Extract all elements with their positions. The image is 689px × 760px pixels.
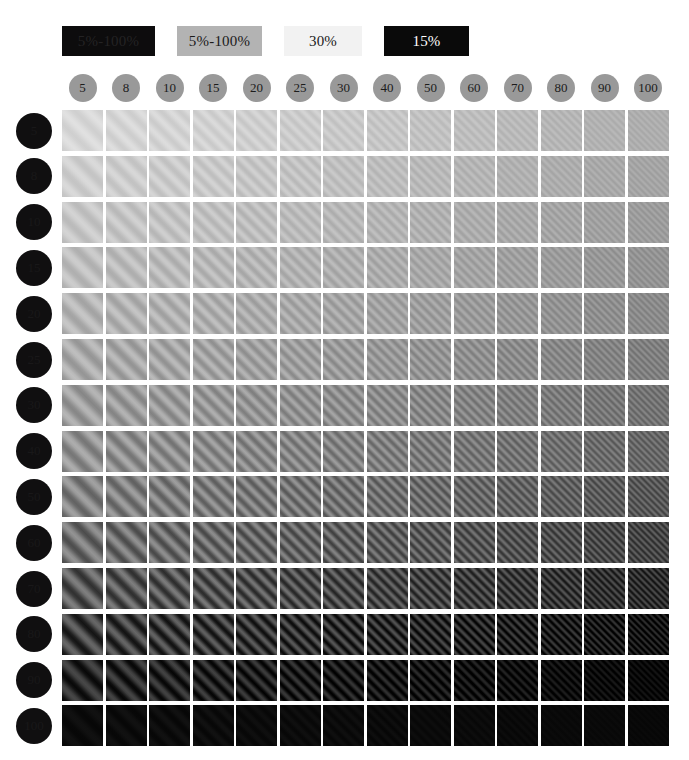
row-header-label: 30 bbox=[28, 397, 41, 413]
grating-pattern bbox=[541, 202, 582, 243]
grating-pattern bbox=[323, 522, 364, 563]
grating-patch bbox=[106, 247, 147, 288]
grating-pattern bbox=[410, 522, 451, 563]
row-header-label: 50 bbox=[28, 489, 41, 505]
grating-pattern bbox=[410, 339, 451, 380]
grating-patch bbox=[280, 431, 321, 472]
column-header-circle: 80 bbox=[547, 74, 575, 102]
grating-patch bbox=[62, 614, 103, 655]
grating-patch bbox=[410, 247, 451, 288]
grating-patch bbox=[323, 385, 364, 426]
row-header-label: 70 bbox=[28, 581, 41, 597]
grating-patch bbox=[497, 568, 538, 609]
grating-pattern bbox=[584, 476, 625, 517]
grating-pattern bbox=[497, 202, 538, 243]
grating-pattern bbox=[367, 293, 408, 334]
grating-patch bbox=[323, 156, 364, 197]
grating-pattern bbox=[367, 705, 408, 746]
grating-pattern bbox=[410, 476, 451, 517]
grating-pattern bbox=[62, 705, 103, 746]
grating-pattern bbox=[410, 705, 451, 746]
grating-pattern bbox=[280, 156, 321, 197]
grating-patch bbox=[323, 476, 364, 517]
grating-patch bbox=[497, 110, 538, 151]
column-header-label: 80 bbox=[555, 80, 568, 96]
grating-patch bbox=[454, 614, 495, 655]
grating-patch bbox=[62, 247, 103, 288]
legend-swatch-0: 5%-100% bbox=[62, 26, 155, 56]
legend-swatch-label: 5%-100% bbox=[78, 33, 139, 50]
grating-patch bbox=[149, 568, 190, 609]
grating-pattern bbox=[193, 614, 234, 655]
row-header-circle: 90 bbox=[16, 662, 52, 698]
row-header-label: 100 bbox=[24, 718, 44, 734]
grating-patch bbox=[497, 385, 538, 426]
grating-patch bbox=[280, 385, 321, 426]
grating-patch bbox=[367, 476, 408, 517]
grating-pattern bbox=[106, 660, 147, 701]
grating-pattern bbox=[410, 156, 451, 197]
grating-pattern bbox=[62, 110, 103, 151]
grating-patch bbox=[541, 293, 582, 334]
grating-pattern bbox=[410, 110, 451, 151]
grating-pattern bbox=[410, 247, 451, 288]
grating-pattern bbox=[367, 385, 408, 426]
grating-pattern bbox=[454, 568, 495, 609]
grating-pattern bbox=[62, 660, 103, 701]
grating-pattern bbox=[628, 522, 669, 563]
grating-pattern bbox=[541, 110, 582, 151]
grating-patch bbox=[106, 431, 147, 472]
grating-pattern bbox=[367, 247, 408, 288]
grating-pattern bbox=[236, 202, 277, 243]
row-header-label: 40 bbox=[28, 443, 41, 459]
grating-pattern bbox=[106, 522, 147, 563]
grating-pattern bbox=[323, 385, 364, 426]
column-header-label: 60 bbox=[468, 80, 481, 96]
grating-patch bbox=[584, 660, 625, 701]
grating-pattern bbox=[367, 156, 408, 197]
grating-pattern bbox=[106, 614, 147, 655]
grating-patch bbox=[193, 705, 234, 746]
grating-patch bbox=[62, 568, 103, 609]
grating-pattern bbox=[497, 293, 538, 334]
column-header-label: 25 bbox=[294, 80, 307, 96]
grating-patch bbox=[62, 202, 103, 243]
grating-pattern bbox=[149, 339, 190, 380]
grating-pattern bbox=[106, 431, 147, 472]
grating-pattern bbox=[106, 247, 147, 288]
grating-patch bbox=[193, 431, 234, 472]
grating-pattern bbox=[106, 202, 147, 243]
grating-pattern bbox=[541, 660, 582, 701]
column-header-circle: 40 bbox=[373, 74, 401, 102]
grating-patch bbox=[193, 385, 234, 426]
grating-patch bbox=[541, 156, 582, 197]
grating-patch bbox=[628, 705, 669, 746]
grating-patch bbox=[584, 385, 625, 426]
grating-patch bbox=[149, 522, 190, 563]
grating-patch bbox=[541, 660, 582, 701]
grating-patch bbox=[149, 614, 190, 655]
grating-pattern bbox=[497, 522, 538, 563]
grating-pattern bbox=[149, 568, 190, 609]
grating-patch bbox=[323, 614, 364, 655]
row-header-label: 90 bbox=[28, 672, 41, 688]
column-header-circle: 20 bbox=[243, 74, 271, 102]
grating-pattern bbox=[497, 431, 538, 472]
grating-pattern bbox=[454, 156, 495, 197]
grating-patch bbox=[106, 614, 147, 655]
grating-patch bbox=[497, 431, 538, 472]
grating-patch bbox=[628, 110, 669, 151]
column-header-circle: 15 bbox=[199, 74, 227, 102]
grating-pattern bbox=[323, 110, 364, 151]
grating-patch bbox=[497, 247, 538, 288]
grating-patch bbox=[410, 568, 451, 609]
grating-patch bbox=[280, 705, 321, 746]
grating-pattern bbox=[454, 339, 495, 380]
grating-pattern bbox=[584, 385, 625, 426]
grating-patch bbox=[62, 431, 103, 472]
grating-patch bbox=[497, 522, 538, 563]
grating-patch bbox=[584, 110, 625, 151]
grating-patch bbox=[106, 568, 147, 609]
grating-pattern bbox=[323, 156, 364, 197]
grating-pattern bbox=[106, 110, 147, 151]
